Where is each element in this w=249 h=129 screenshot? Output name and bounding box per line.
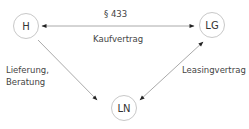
edge-label-lieferung: Lieferung, xyxy=(6,64,49,76)
edge-label-beratung: Beratung xyxy=(6,76,45,88)
edge-label-section: § 433 xyxy=(104,8,127,20)
node-lg: LG xyxy=(199,12,225,38)
node-ln: LN xyxy=(111,95,137,121)
edge-label-leasingvertrag: Leasingvertrag xyxy=(182,64,246,76)
node-h-label: H xyxy=(22,21,30,32)
edge-label-kaufvertrag: Kaufvertrag xyxy=(93,33,143,45)
node-h: H xyxy=(13,13,39,39)
node-ln-label: LN xyxy=(117,103,130,114)
node-lg-label: LG xyxy=(205,20,218,31)
